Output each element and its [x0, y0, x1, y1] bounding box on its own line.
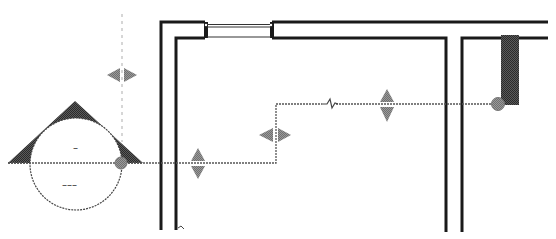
fixture-label-top: –	[73, 142, 78, 153]
walls[interactable]	[161, 22, 548, 232]
outer-wall-left	[161, 22, 205, 230]
inner-wall-left	[176, 38, 205, 230]
pipe-node-right[interactable]	[492, 98, 505, 111]
cursor-mark-icon	[178, 226, 184, 229]
horizontal-stretch-grip-icon[interactable]	[259, 128, 291, 142]
fixture-circle	[30, 118, 122, 210]
inner-wall-top	[272, 38, 446, 232]
vertical-stretch-grip-icon[interactable]	[380, 89, 394, 122]
cad-drawing-canvas[interactable]: – –––	[0, 0, 556, 239]
fixture-symbol[interactable]: – –––	[8, 101, 143, 210]
equipment-block[interactable]	[501, 35, 519, 105]
fixture-label-bottom: –––	[62, 179, 77, 190]
window[interactable]	[204, 22, 274, 38]
pipe-node-left[interactable]	[115, 157, 127, 169]
pipe-break-icon	[322, 99, 338, 108]
